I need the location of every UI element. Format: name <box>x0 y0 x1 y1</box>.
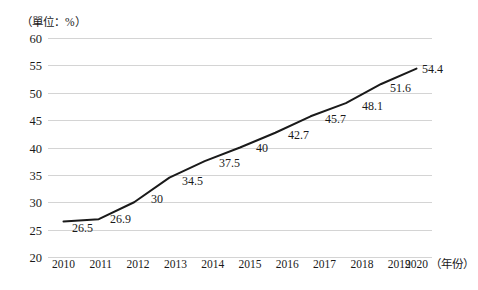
x-axis-tick-label: 2014 <box>193 259 233 271</box>
data-point-label: 48.1 <box>362 100 383 112</box>
gridline <box>48 93 432 94</box>
y-axis-tick-label: 50 <box>18 88 42 101</box>
x-axis-tick-label: 2013 <box>155 259 195 271</box>
x-axis-tick-label: 2010 <box>44 259 84 271</box>
data-point-label: 51.6 <box>390 82 411 94</box>
y-axis-tick-label: 25 <box>18 225 42 238</box>
y-axis-tick-label: 30 <box>18 197 42 210</box>
y-axis-tick-label: 20 <box>18 252 42 265</box>
data-point-label: 37.5 <box>219 157 240 169</box>
y-axis-tick-label: 60 <box>18 33 42 46</box>
gridline <box>48 38 432 39</box>
data-point-label: 26.9 <box>110 213 131 225</box>
gridline <box>48 65 432 66</box>
gridline <box>48 175 432 176</box>
x-axis-tick-label: 2017 <box>305 259 345 271</box>
gridline <box>48 120 432 121</box>
data-point-label: 40 <box>256 142 268 154</box>
gridline <box>48 230 432 231</box>
x-axis-tick-label: 2018 <box>342 259 382 271</box>
x-axis-tick-label: 2011 <box>81 259 121 271</box>
x-axis-unit-label: （年份） <box>430 259 474 271</box>
plot-area <box>48 38 432 257</box>
data-point-label: 54.4 <box>422 63 443 75</box>
gridline <box>48 148 432 149</box>
y-axis-unit-label: （單位：%） <box>21 13 86 29</box>
y-axis-tick-label: 40 <box>18 143 42 156</box>
x-axis-tick-label: 2015 <box>230 259 270 271</box>
y-axis-tick-label: 35 <box>18 170 42 183</box>
data-point-label: 34.5 <box>182 175 203 187</box>
x-axis-tick-label: 2016 <box>267 259 307 271</box>
data-point-label: 42.7 <box>288 129 309 141</box>
data-point-label: 26.5 <box>72 222 93 234</box>
x-axis-tick-label: 2012 <box>118 259 158 271</box>
chart-screenshot: （單位：%） 60 55 50 45 40 35 30 25 20 2010 2… <box>0 0 478 290</box>
data-point-label: 45.7 <box>325 113 346 125</box>
y-axis-tick-label: 55 <box>18 60 42 73</box>
data-point-label: 30 <box>151 193 163 205</box>
y-axis-tick-label: 45 <box>18 115 42 128</box>
gridline <box>48 202 432 203</box>
